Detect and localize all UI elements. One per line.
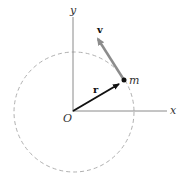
y-axis-label: y [69, 4, 77, 17]
circular-motion-diagram: y x O r v m [0, 0, 185, 179]
position-vector-label: r [93, 84, 99, 95]
mass-point [122, 78, 127, 83]
velocity-vector [98, 39, 124, 80]
velocity-vector-label: v [96, 24, 104, 35]
x-axis-label: x [170, 104, 177, 117]
circular-path [14, 52, 134, 172]
mass-label: m [129, 74, 139, 87]
origin-label: O [63, 112, 72, 125]
